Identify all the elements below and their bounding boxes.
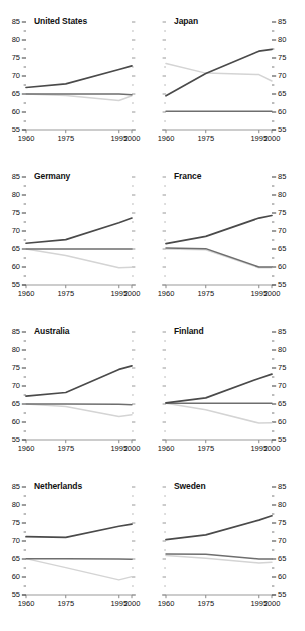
series-line-mid [26,404,132,405]
y-axis-tick-label: 55 [278,281,300,289]
chart-panel-germany: Germany556065707580851960197519952000 [0,155,152,310]
y-axis-tick-label: 85 [0,173,20,181]
x-axis-tick-label: 1960 [15,290,37,298]
x-axis-tick-label: 2000 [121,290,143,298]
y-axis-tick-label: 85 [0,18,20,26]
series-line-dark [166,49,272,95]
y-axis-tick-label: 75 [0,54,20,62]
y-axis-tick-label: 70 [278,537,300,545]
y-axis-tick-label: 55 [278,126,300,134]
y-axis-tick-label: 80 [0,346,20,354]
chart-panel-australia: Australia556065707580851960197519952000 [0,310,152,465]
y-axis-tick-label: 70 [0,72,20,80]
series-line-dark [26,366,132,396]
y-axis-tick-label: 60 [0,108,20,116]
plot-area [0,155,152,310]
y-axis-tick-label: 55 [0,281,20,289]
x-axis-tick-label: 1975 [55,135,77,143]
y-axis-tick-label: 55 [0,436,20,444]
x-axis-tick-label: 1975 [55,290,77,298]
series-line-light [26,249,132,268]
y-axis-tick-label: 60 [278,418,300,426]
x-axis-tick-label: 2000 [121,135,143,143]
y-axis-tick-label: 80 [0,191,20,199]
y-axis-tick-label: 85 [278,483,300,491]
y-axis-tick-label: 65 [278,400,300,408]
y-axis-tick-label: 70 [0,227,20,235]
y-axis-tick-label: 70 [278,382,300,390]
y-axis-tick-label: 80 [278,191,300,199]
x-axis-tick-label: 1975 [55,445,77,453]
y-axis-tick-label: 65 [0,245,20,253]
y-axis-tick-label: 80 [278,501,300,509]
y-axis-tick-label: 65 [278,555,300,563]
x-axis-tick-label: 1960 [155,600,177,608]
series-line-light [166,249,272,268]
panel-title: Netherlands [34,482,82,491]
y-axis-tick-label: 60 [278,573,300,581]
panel-title: France [174,172,201,181]
y-axis-tick-label: 60 [0,418,20,426]
series-line-light [26,404,132,417]
series-line-light [26,559,132,580]
y-axis-tick-label: 75 [278,519,300,527]
panel-title: Japan [174,17,198,26]
y-axis-tick-label: 75 [278,364,300,372]
x-axis-tick-label: 2000 [261,445,283,453]
y-axis-tick-label: 60 [278,263,300,271]
series-line-dark [166,374,272,403]
y-axis-tick-label: 65 [0,90,20,98]
y-axis-tick-label: 60 [0,263,20,271]
y-axis-tick-label: 80 [0,501,20,509]
y-axis-tick-label: 80 [0,36,20,44]
series-line-mid [26,94,132,95]
x-axis-tick-label: 2000 [261,600,283,608]
y-axis-tick-label: 75 [278,209,300,217]
y-axis-tick-label: 85 [0,328,20,336]
x-axis-tick-label: 1960 [155,290,177,298]
x-axis-tick-label: 2000 [121,600,143,608]
chart-panel-united-states: United States556065707580851960197519952… [0,0,152,155]
y-axis-tick-label: 70 [278,72,300,80]
y-axis-tick-label: 65 [0,400,20,408]
chart-panel-finland: Finland556065707580851960197519952000 [152,310,305,465]
series-line-dark [166,516,272,540]
series-line-light [26,94,132,100]
x-axis-tick-label: 1960 [155,135,177,143]
panel-title: Sweden [174,482,206,491]
panel-title: Australia [34,327,69,336]
y-axis-tick-label: 80 [278,346,300,354]
y-axis-tick-label: 85 [0,483,20,491]
series-line-light [166,63,272,81]
x-axis-tick-label: 1975 [195,290,217,298]
chart-panel-netherlands: Netherlands55606570758085196019751995200… [0,465,152,631]
chart-panel-sweden: Sweden556065707580851960197519952000 [152,465,305,631]
x-axis-tick-label: 1975 [55,600,77,608]
y-axis-tick-label: 70 [278,227,300,235]
x-axis-tick-label: 2000 [261,135,283,143]
y-axis-tick-label: 65 [0,555,20,563]
series-line-dark [26,66,132,88]
y-axis-tick-label: 85 [278,328,300,336]
y-axis-tick-label: 55 [278,591,300,599]
x-axis-tick-label: 1960 [15,135,37,143]
y-axis-tick-label: 85 [278,173,300,181]
y-axis-tick-label: 70 [0,382,20,390]
y-axis-tick-label: 65 [278,245,300,253]
x-axis-tick-label: 2000 [261,290,283,298]
x-axis-tick-label: 1960 [15,600,37,608]
panel-title: Finland [174,327,204,336]
y-axis-tick-label: 85 [278,18,300,26]
y-axis-tick-label: 75 [0,519,20,527]
y-axis-tick-label: 55 [278,436,300,444]
x-axis-tick-label: 1960 [15,445,37,453]
small-multiples-chart-grid: United States556065707580851960197519952… [0,0,305,631]
panel-title: Germany [34,172,70,181]
x-axis-tick-label: 1975 [195,600,217,608]
series-line-dark [26,218,132,243]
y-axis-tick-label: 80 [278,36,300,44]
chart-panel-japan: Japan556065707580851960197519952000 [152,0,305,155]
y-axis-tick-label: 70 [0,537,20,545]
chart-panel-france: France556065707580851960197519952000 [152,155,305,310]
y-axis-tick-label: 65 [278,90,300,98]
